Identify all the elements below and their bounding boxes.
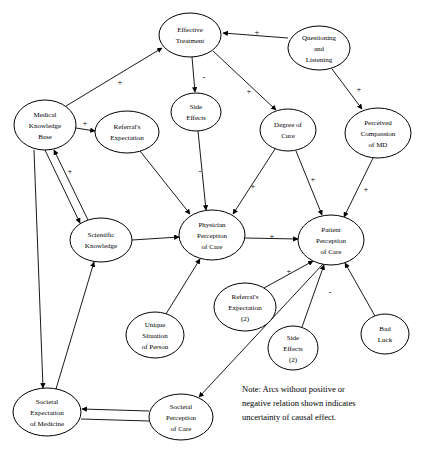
edge-effective-treatment-to-degree-of-cure — [213, 51, 276, 110]
node-shape — [159, 13, 221, 57]
diagram-note: Note: Arcs without positive or negative … — [242, 384, 356, 422]
node-label-line: Expectation — [228, 304, 262, 312]
node-label-line: Knowledge — [85, 242, 117, 250]
node-label-line: Bad — [379, 325, 391, 333]
node-label-line: Referral's — [114, 123, 141, 131]
node-societal-perception-of-care[interactable]: Societal Perception of Care — [149, 394, 213, 440]
node-label-line: Situation — [142, 332, 168, 340]
node-side-effects[interactable]: Side Effects — [171, 93, 221, 131]
node-label-line: Questioning — [302, 34, 337, 42]
edge-medical-knowledge-to-referrals-expectation — [76, 128, 95, 131]
node-label-line: and — [314, 45, 325, 53]
node-label-line: Perception — [316, 237, 346, 245]
node-label-line: of Medicine — [30, 420, 64, 428]
node-bad-luck[interactable]: Bad Luck — [361, 314, 409, 354]
node-label-line: Knowledge — [29, 122, 61, 130]
node-label-line: Effects — [186, 114, 206, 122]
edge-referrals-expectation-to-physician-perception — [140, 151, 190, 214]
causal-loop-diagram: Effective Treatment Questioning and List… — [0, 0, 429, 455]
edge-sign: - — [203, 72, 206, 82]
node-label-line: of Person — [142, 343, 169, 351]
edge-societal-perception-to-societal-expectation — [82, 409, 149, 411]
node-shape — [70, 218, 132, 262]
edge-sign: + — [251, 181, 256, 191]
edge-societal-expectation-to-societal-perception — [81, 419, 149, 421]
nodes-group: Effective Treatment Questioning and List… — [13, 13, 411, 440]
note-line: uncertainty of causal effect. — [242, 412, 336, 422]
node-label-line: Medical — [34, 111, 57, 119]
node-label-line: Scientific — [88, 231, 115, 239]
node-referrals-expectation-2[interactable]: Referral's Expectation (2) — [214, 283, 276, 331]
edge-sign: + — [270, 231, 275, 241]
edge-scientific-knowledge-to-physician-perception — [132, 237, 179, 240]
node-label-line: Perception — [197, 232, 227, 240]
edge-sign: - — [329, 287, 332, 297]
node-label-line: Societal — [36, 398, 59, 406]
edge-medical-knowledge-to-scientific-knowledge — [45, 150, 80, 223]
node-label-line: of MD — [369, 141, 388, 149]
node-label-line: of Care — [321, 248, 342, 256]
node-label-line: Referral's — [232, 293, 259, 301]
edge-sign: + — [68, 166, 73, 176]
edge-sign: + — [118, 77, 123, 87]
edge-scientific-knowledge-to-medical-knowledge — [54, 150, 88, 220]
edge-sign: + — [255, 27, 260, 37]
edge-sign: + — [364, 184, 369, 194]
node-label-line: of Care — [202, 243, 223, 251]
edge-societal-expectation-to-scientific-knowledge — [56, 262, 94, 389]
node-label-line: Luck — [378, 336, 393, 344]
node-referrals-expectation[interactable]: Referral's Expectation — [95, 111, 159, 153]
edge-unique-situation-to-physician-perception — [166, 259, 200, 314]
node-label-line: Side — [287, 334, 299, 342]
node-label-line: Expectation — [30, 409, 64, 417]
node-questioning-and-listening[interactable]: Questioning and Listening — [288, 26, 350, 70]
edge-perceived-compassion-to-patient-perception — [344, 158, 373, 217]
node-degree-of-cure[interactable]: Degree of Cure — [260, 109, 316, 151]
node-perceived-compassion-of-md[interactable]: Perceived Compassion of MD — [345, 108, 411, 158]
edge-sign: + — [311, 174, 316, 184]
node-shape — [171, 93, 221, 131]
node-label-line: Listening — [306, 56, 333, 64]
node-societal-expectation-of-medicine[interactable]: Societal Expectation of Medicine — [13, 388, 81, 436]
note-line: Note: Arcs without positive or — [242, 384, 345, 394]
diagram-canvas: Effective Treatment Questioning and List… — [0, 0, 429, 455]
node-label-line: (2) — [289, 356, 298, 364]
node-label-line: Perceived — [364, 119, 392, 127]
node-label-line: Effects — [283, 345, 303, 353]
edge-effective-treatment-to-side-effects — [192, 57, 195, 92]
edge-sign: + — [357, 84, 362, 94]
note-line: negative relation shown indicates — [242, 398, 356, 408]
node-label-line: (2) — [241, 315, 250, 323]
node-label-line: of Care — [171, 425, 192, 433]
node-label-line: Societal — [170, 403, 193, 411]
node-label-line: Treatment — [176, 37, 205, 45]
node-label-line: Side — [190, 103, 202, 111]
node-label-line: Effective — [177, 26, 203, 34]
node-shape — [260, 109, 316, 151]
node-effective-treatment[interactable]: Effective Treatment — [159, 13, 221, 57]
node-label-line: Patient — [321, 226, 340, 234]
node-label-line: Degree of — [274, 121, 302, 129]
node-shape — [361, 314, 409, 354]
edge-degree-of-cure-to-patient-perception — [296, 151, 322, 215]
node-side-effects-2[interactable]: Side Effects (2) — [268, 326, 318, 370]
edge-bad-luck-to-patient-perception — [345, 263, 375, 316]
node-label-line: Physician — [198, 221, 226, 229]
edge-sign: - — [199, 166, 202, 176]
node-label-line: Compassion — [361, 130, 396, 138]
edge-sign: + — [247, 86, 252, 96]
edge-medical-knowledge-to-effective-treatment — [66, 48, 162, 106]
edge-medical-knowledge-to-societal-expectation — [34, 150, 43, 388]
node-label-line: Unique — [145, 321, 166, 329]
node-physician-perception-of-care[interactable]: Physician Perception of Care — [179, 210, 245, 260]
node-unique-situation-of-person[interactable]: Unique Situation of Person — [126, 312, 184, 358]
node-patient-perception-of-care[interactable]: Patient Perception of Care — [298, 215, 364, 265]
node-label-line: Cure — [281, 132, 295, 140]
edge-sign: + — [83, 118, 88, 128]
node-label-line: Perception — [166, 414, 196, 422]
node-scientific-knowledge[interactable]: Scientific Knowledge — [70, 218, 132, 262]
node-label-line: Base — [38, 133, 52, 141]
node-medical-knowledge-base[interactable]: Medical Knowledge Base — [14, 100, 76, 150]
edge-sign: + — [287, 266, 292, 276]
node-label-line: Expectation — [110, 134, 144, 142]
